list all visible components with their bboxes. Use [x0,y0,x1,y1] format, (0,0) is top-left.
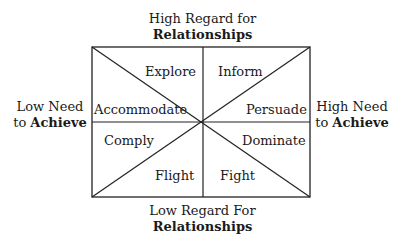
top-axis-line1: High Regard for [140,11,265,27]
segment-fight: Fight [220,168,255,184]
left-axis-label: Low Need to Achieve [12,99,88,131]
bottom-axis-line1: Low Regard For [140,203,265,219]
segment-explore: Explore [145,64,196,80]
left-axis-bold: Achieve [30,115,87,130]
segment-persuade: Persuade [246,102,307,118]
top-axis-line2: Relationships [153,27,253,42]
segment-inform: Inform [218,64,263,80]
left-axis-prefix: to [13,115,30,130]
segment-accommodate: Accommodate [94,102,187,118]
segment-comply: Comply [104,133,154,149]
right-axis-label: High Need to Achieve [312,99,392,131]
top-axis-label: High Regard for Relationships [140,11,265,43]
bottom-axis-label: Low Regard For Relationships [140,203,265,235]
right-axis-line1: High Need [312,99,392,115]
right-axis-prefix: to [315,115,332,130]
segment-flight: Flight [155,168,194,184]
right-axis-bold: Achieve [332,115,389,130]
bottom-axis-line2: Relationships [153,219,253,234]
segment-dominate: Dominate [242,133,306,149]
left-axis-line1: Low Need [12,99,88,115]
